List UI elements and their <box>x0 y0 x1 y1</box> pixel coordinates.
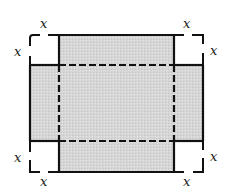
label-bottom-right-side: x <box>210 149 218 164</box>
label-top-left-side: x <box>14 44 22 59</box>
label-top-right-top: x <box>183 16 191 31</box>
label-bottom-left-bottom: x <box>40 174 48 189</box>
label-top-left-top: x <box>40 16 48 31</box>
box-net-diagram: x x x x x x x x <box>0 0 231 196</box>
label-bottom-left-side: x <box>14 150 22 165</box>
label-top-right-side: x <box>210 43 218 58</box>
shaded-region <box>30 35 203 172</box>
label-bottom-right-bottom: x <box>183 174 191 189</box>
